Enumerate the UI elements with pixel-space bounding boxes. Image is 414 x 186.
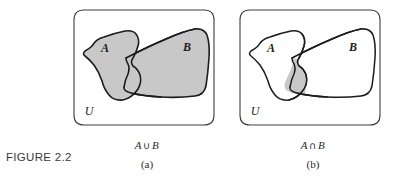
set-b-label-a: B	[182, 40, 191, 54]
universe-label-a: U	[85, 104, 95, 118]
venn-panel-a: A B U A∪B (a)	[62, 0, 232, 186]
set-a-label-a: A	[100, 41, 109, 55]
set-b-label-b: B	[348, 40, 357, 54]
set-a-label-b: A	[266, 41, 275, 55]
caption-operand-right-b: B	[318, 139, 325, 151]
caption-operand-right-a: B	[152, 139, 159, 151]
figure-container: FIGURE 2.2 A B U A∪B (a)	[0, 0, 414, 186]
caption-expression-b: A∩B	[228, 139, 398, 151]
intersection-operator-icon: ∩	[308, 140, 318, 151]
caption-sublabel-b: (b)	[228, 158, 398, 170]
venn-diagram-union-svg: A B U	[62, 0, 232, 135]
caption-sublabel-a: (a)	[62, 158, 232, 170]
caption-operand-left-a: A	[135, 139, 142, 151]
caption-expression-a: A∪B	[62, 139, 232, 151]
universe-label-b: U	[251, 104, 261, 118]
union-operator-icon: ∪	[142, 140, 152, 151]
venn-diagram-intersection-svg: A B U	[228, 0, 398, 135]
venn-panel-b: A B U A∩B (b)	[228, 0, 398, 186]
caption-operand-left-b: A	[301, 139, 308, 151]
